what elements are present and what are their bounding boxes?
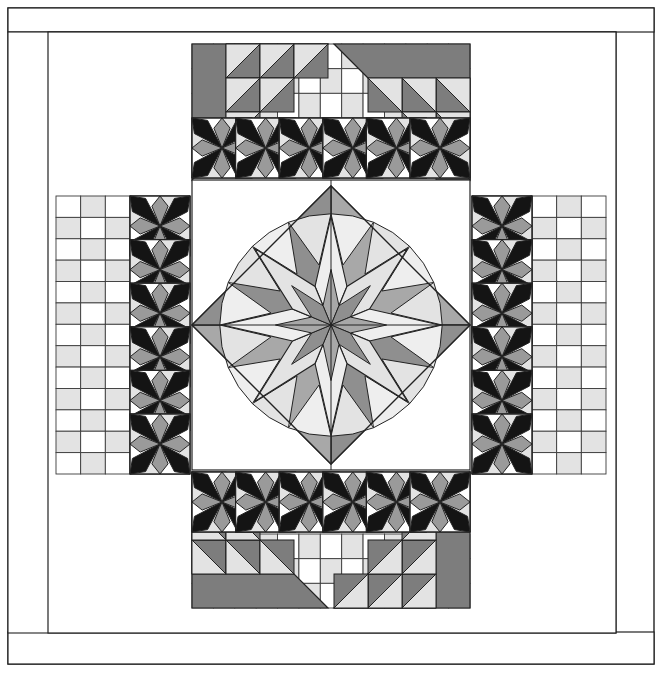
star-band-right (472, 196, 532, 474)
checker-cell (557, 453, 582, 474)
checker-cell (532, 303, 557, 324)
checker-cell (81, 239, 106, 260)
checker-cell (557, 346, 582, 367)
checker-cell (81, 367, 106, 388)
checker-cell (56, 410, 81, 431)
checker-cell (81, 324, 106, 345)
checker-cell (532, 196, 557, 217)
star-block (130, 414, 190, 474)
checker-cell (56, 239, 81, 260)
checker-cell (557, 282, 582, 303)
checker-cell (56, 260, 81, 281)
checker-cell (56, 217, 81, 238)
checker-cell (105, 388, 130, 409)
checker-cell (105, 410, 130, 431)
checker-cell (56, 196, 81, 217)
checker-cell (581, 388, 606, 409)
checker-cell (557, 410, 582, 431)
checker-cell (581, 367, 606, 388)
quilt-artwork (8, 8, 654, 664)
checker-cell (532, 453, 557, 474)
checker-cell (557, 260, 582, 281)
bottom-plain-sashing (8, 632, 654, 664)
checker-cell (532, 260, 557, 281)
checker-cell (56, 282, 81, 303)
checker-cell (581, 260, 606, 281)
checker-cell (81, 196, 106, 217)
checkerboard-panel-right (532, 196, 606, 474)
checker-cell (532, 388, 557, 409)
checker-cell (532, 282, 557, 303)
quilt-diagram-canvas (0, 0, 662, 684)
checker-cell (557, 324, 582, 345)
checker-cell (532, 431, 557, 452)
checker-cell (81, 431, 106, 452)
checker-cell (342, 93, 363, 118)
top-plain-sashing (8, 8, 654, 32)
checker-cell (299, 559, 320, 584)
checker-cell (56, 367, 81, 388)
checker-cell (342, 69, 363, 94)
checker-cell (105, 324, 130, 345)
checker-cell (56, 388, 81, 409)
checker-cell (81, 217, 106, 238)
star-block (410, 472, 470, 532)
checker-cell (581, 453, 606, 474)
checker-cell (557, 367, 582, 388)
checker-cell (557, 303, 582, 324)
checker-cell (320, 93, 341, 118)
checker-cell (56, 346, 81, 367)
checker-cell (105, 196, 130, 217)
quilt-pattern-svg (0, 0, 662, 684)
checker-cell (81, 410, 106, 431)
checker-cell (105, 431, 130, 452)
checkerboard-panel-left (56, 196, 130, 474)
checker-cell (581, 431, 606, 452)
checker-cell (557, 431, 582, 452)
checker-cell (81, 346, 106, 367)
checker-cell (532, 217, 557, 238)
checker-cell (581, 217, 606, 238)
checker-cell (299, 534, 320, 559)
checker-cell (342, 534, 363, 559)
checker-cell (105, 346, 130, 367)
checker-cell (581, 346, 606, 367)
checker-cell (581, 282, 606, 303)
checker-cell (581, 410, 606, 431)
checker-cell (81, 260, 106, 281)
checker-cell (581, 324, 606, 345)
checker-cell (532, 324, 557, 345)
star-band-top (192, 118, 470, 178)
star-band-left (130, 196, 190, 474)
checker-cell (81, 282, 106, 303)
checker-cell (557, 217, 582, 238)
checker-cell (56, 431, 81, 452)
checker-cell (105, 239, 130, 260)
checker-cell (581, 303, 606, 324)
checker-cell (81, 303, 106, 324)
checker-cell (532, 239, 557, 260)
center-medallion (192, 180, 470, 470)
checker-cell (105, 303, 130, 324)
checker-cell (56, 453, 81, 474)
checker-cell (81, 453, 106, 474)
checker-cell (299, 93, 320, 118)
checker-cell (105, 367, 130, 388)
checker-cell (105, 217, 130, 238)
star-band-bottom (192, 472, 470, 532)
checker-cell (557, 239, 582, 260)
checker-cell (105, 282, 130, 303)
checker-cell (56, 324, 81, 345)
checker-cell (56, 303, 81, 324)
checker-cell (532, 410, 557, 431)
checker-cell (105, 260, 130, 281)
checker-cell (105, 453, 130, 474)
checker-cell (581, 239, 606, 260)
checker-cell (557, 196, 582, 217)
checker-cell (581, 196, 606, 217)
star-block (410, 118, 470, 178)
checker-cell (320, 534, 341, 559)
checker-cell (532, 367, 557, 388)
checker-cell (81, 388, 106, 409)
checker-cell (557, 388, 582, 409)
